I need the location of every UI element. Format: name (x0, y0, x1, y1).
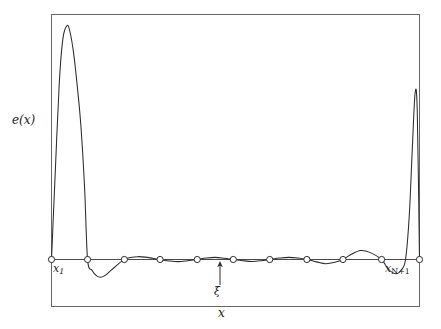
x-axis-label: x (218, 306, 225, 320)
y-axis-label: e(x) (12, 113, 35, 127)
equioscillation-node-marker (267, 256, 273, 262)
equioscillation-node-marker (230, 256, 236, 262)
equioscillation-node-marker (121, 256, 127, 262)
error-plot-svg (0, 0, 441, 329)
equioscillation-node-marker (379, 256, 385, 262)
equioscillation-node-marker (157, 256, 163, 262)
equioscillation-node-marker (340, 256, 346, 262)
first-node-label: x1 (53, 262, 64, 276)
last-node-label-sub: N+1 (391, 267, 410, 276)
y-axis-label-x: x (24, 113, 31, 127)
plot-frame (52, 15, 420, 307)
last-node-label: xN+1 (385, 262, 410, 276)
equioscillation-node-marker (84, 256, 90, 262)
y-axis-label-paren-close: ) (31, 113, 36, 127)
first-node-label-sub: 1 (59, 267, 64, 276)
figure-canvas: e(x) x x1 xN+1 ξ (0, 0, 441, 329)
equioscillation-node-marker (194, 256, 200, 262)
error-curve-path (52, 25, 420, 277)
equioscillation-node-marker (304, 256, 310, 262)
xi-arrow-annotation (217, 261, 223, 285)
equioscillation-node-marker (416, 256, 422, 262)
xi-label: ξ (214, 285, 220, 298)
